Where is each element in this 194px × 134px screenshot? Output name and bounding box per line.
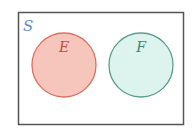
sample-space-label: S [23, 17, 33, 35]
set-e-label: E [58, 39, 69, 55]
set-f-label: F [135, 39, 147, 55]
venn-diagram: S E F [0, 0, 194, 134]
